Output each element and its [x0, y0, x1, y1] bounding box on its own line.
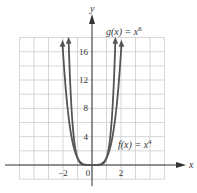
- labels: xy−202481216g(x) = x6f(x) = x4: [58, 3, 194, 178]
- label-g-x6: g(x) = x6: [106, 25, 142, 38]
- x-tick-label: −2: [58, 168, 68, 178]
- label-f-x4: f(x) = x4: [118, 138, 152, 151]
- y-tick-label: 12: [79, 75, 88, 85]
- x-axis-label: x: [188, 159, 194, 170]
- chart: xy−202481216g(x) = x6f(x) = x4: [0, 0, 197, 193]
- x-tick-label: 2: [119, 168, 124, 178]
- y-tick-label: 4: [84, 132, 89, 142]
- y-tick-label: 16: [79, 47, 89, 57]
- curve-arrow-icon: [119, 40, 125, 47]
- curve-arrow-icon: [60, 40, 66, 47]
- x-tick-label: 0: [86, 168, 91, 178]
- y-axis-label: y: [89, 3, 95, 14]
- y-axis-arrow-icon: [89, 14, 95, 24]
- axes: [5, 14, 186, 186]
- y-tick-label: 8: [84, 103, 89, 113]
- x-axis-arrow-icon: [176, 162, 186, 168]
